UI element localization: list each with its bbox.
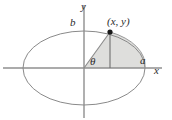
parametric-point-label: (x, y) <box>107 15 130 28</box>
x-axis-label: x <box>153 64 159 76</box>
semi-major-axis-label: a <box>140 54 146 66</box>
parametric-point-dot <box>107 29 112 34</box>
semi-minor-axis-label: b <box>70 16 76 28</box>
y-axis-label: y <box>80 0 86 12</box>
angle-theta-label: θ <box>90 55 96 67</box>
ellipse-diagram-canvas: y x b a (x, y) θ <box>0 0 172 120</box>
ellipse-diagram-figure: y x b a (x, y) θ <box>0 0 172 120</box>
